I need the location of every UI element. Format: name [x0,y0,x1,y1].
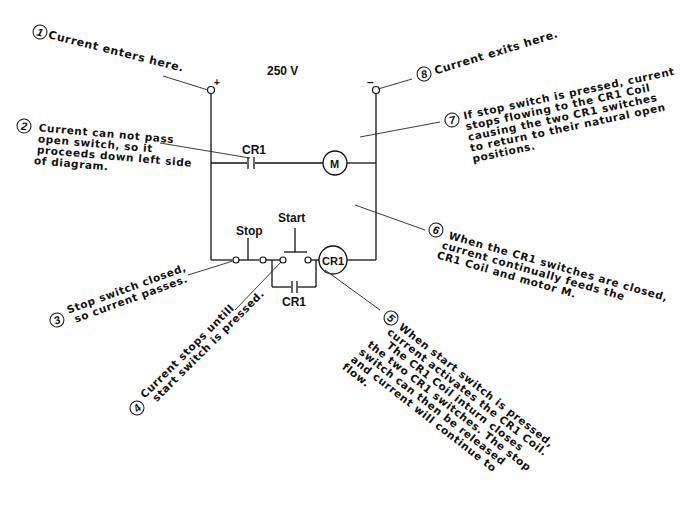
start-switch-label: Start [278,211,305,225]
note-4: 4 Current stops untill start switch is p… [124,279,266,421]
voltage-label: 250 V [267,64,298,78]
svg-text:1: 1 [36,25,45,38]
note-2: 2 Current can not pass open switch, so i… [14,118,195,179]
cr1-parallel-contact-label: CR1 [282,295,306,309]
cr1-top-contact-label: CR1 [242,143,266,157]
negative-sign: – [367,75,374,89]
svg-text:7: 7 [448,113,457,126]
svg-text:Current stops untill: Current stops untill [138,302,237,401]
note-8: 8 Current exits here. [415,26,560,82]
note-1: 1 Current enters here. [32,24,186,75]
ladder-diagram: + – 250 V CR1 M Stop Start CR1 C [0,0,695,518]
svg-text:Current enters here.: Current enters here. [47,28,185,74]
svg-text:3: 3 [52,313,62,326]
positive-sign: + [214,77,220,88]
circuit: + – [208,75,380,293]
note-5: 5 When start switch is pressed, current … [340,308,557,502]
svg-text:Current exits here.: Current exits here. [433,27,560,77]
svg-text:8: 8 [419,67,429,81]
motor-label: M [330,158,339,170]
svg-text:6: 6 [431,223,441,236]
stop-switch-label: Stop [236,224,263,238]
note-3: 3 Stop switch closed, so current passes. [46,261,191,333]
svg-text:2: 2 [19,120,27,133]
cr1-coil-label: CR1 [322,255,344,267]
note-7: 7 If stop switch is pressed, current sto… [443,65,684,169]
stop-contact-right [260,257,266,263]
note-6: 6 When the CR1 switches are closed, curr… [421,221,670,324]
svg-text:start switch is pressed.: start switch is pressed. [150,287,267,404]
stop-contact-left [233,257,239,263]
start-contact-right [305,257,311,263]
leader-lines [160,76,440,310]
